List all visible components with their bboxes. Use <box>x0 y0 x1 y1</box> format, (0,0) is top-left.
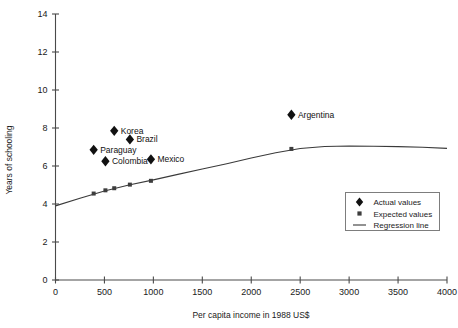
actual-value-marker <box>110 126 118 136</box>
expected-value-marker <box>103 188 107 192</box>
data-point-label: Colombia <box>112 156 148 166</box>
legend-square-icon <box>357 211 361 215</box>
x-tick-label: 500 <box>97 287 112 297</box>
y-tick-label: 2 <box>42 237 47 247</box>
actual-value-marker <box>147 154 155 164</box>
y-axis-title: Years of schooling <box>4 125 14 194</box>
chart-figure: 02468101214 0500100015002000250030003500… <box>0 0 458 328</box>
actual-value-marker <box>287 110 295 120</box>
actual-value-marker <box>101 156 109 166</box>
data-point-labels: KoreaBrazilParaguayColombiaMexicoArgenti… <box>100 110 334 167</box>
x-tick-label: 2000 <box>241 287 261 297</box>
legend-label[interactable]: Actual values <box>374 198 422 207</box>
data-point-label: Argentina <box>298 110 335 120</box>
y-tick-label: 10 <box>37 85 47 95</box>
x-tick-label: 1000 <box>143 287 163 297</box>
x-tick-label: 3000 <box>339 287 359 297</box>
x-tick-label: 3500 <box>388 287 408 297</box>
data-point-label: Paraguay <box>100 145 137 155</box>
y-tick-label: 0 <box>42 275 47 285</box>
x-tick-label: 2500 <box>290 287 310 297</box>
legend-label[interactable]: Expected values <box>374 210 433 219</box>
y-tick-label: 6 <box>42 161 47 171</box>
expected-value-marker <box>289 147 293 151</box>
data-point-label: Mexico <box>157 154 184 164</box>
expected-value-marker <box>112 186 116 190</box>
y-tick-label: 4 <box>42 199 47 209</box>
y-tick-label: 12 <box>37 47 47 57</box>
x-tick-label: 0 <box>53 287 58 297</box>
y-tick-label: 8 <box>42 123 47 133</box>
expected-value-marker <box>92 192 96 196</box>
legend-label[interactable]: Regression line <box>374 221 430 230</box>
x-tick-label: 1500 <box>192 287 212 297</box>
expected-value-marker <box>149 179 153 183</box>
expected-value-marker <box>128 183 132 187</box>
chart-canvas: 02468101214 0500100015002000250030003500… <box>0 0 458 328</box>
actual-value-marker <box>90 145 98 155</box>
x-axis-title: Per capita income in 1988 US$ <box>192 310 309 320</box>
x-tick-label: 4000 <box>437 287 457 297</box>
chart-legend[interactable]: Actual valuesExpected valuesRegression l… <box>346 193 440 231</box>
y-tick-label: 14 <box>37 9 47 19</box>
data-point-label: Brazil <box>136 134 157 144</box>
